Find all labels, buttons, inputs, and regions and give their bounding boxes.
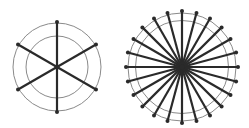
wheel-24-spokes: [124, 9, 240, 125]
spoke-end-dot: [132, 37, 136, 41]
spoke-end-dot: [229, 37, 233, 41]
spoke-end-dot: [132, 93, 136, 97]
spoke-wheels-diagram: [0, 0, 249, 128]
spoke: [57, 45, 96, 68]
spoke: [57, 67, 96, 90]
spoke-end-dot: [124, 65, 128, 69]
hub-dot: [180, 65, 185, 70]
spoke-end-dot: [220, 25, 224, 29]
spoke-end-dot: [180, 9, 184, 13]
spoke-end-dot: [152, 114, 156, 118]
spoke-end-dot: [220, 105, 224, 109]
hub-dot: [55, 65, 60, 70]
spoke-end-dot: [180, 121, 184, 125]
spoke-end-dot: [126, 79, 130, 83]
spoke-end-dot: [152, 17, 156, 21]
spoke-end-dot: [94, 43, 98, 47]
spoke-end-dot: [126, 51, 130, 55]
spoke: [18, 45, 57, 68]
spoke-end-dot: [16, 43, 20, 47]
spoke-end-dot: [236, 65, 240, 69]
spoke-end-dot: [194, 119, 198, 123]
spoke-end-dot: [16, 88, 20, 92]
spoke-end-dot: [234, 79, 238, 83]
spoke-end-dot: [234, 51, 238, 55]
spoke-end-dot: [194, 11, 198, 15]
spoke-end-dot: [166, 11, 170, 15]
spoke-end-dot: [140, 105, 144, 109]
spoke-end-dot: [229, 93, 233, 97]
spoke-end-dot: [208, 114, 212, 118]
spoke: [18, 67, 57, 90]
spoke-end-dot: [55, 20, 59, 24]
wheel-6-spokes: [13, 20, 101, 114]
spoke-end-dot: [94, 88, 98, 92]
spoke-end-dot: [55, 110, 59, 114]
spoke-end-dot: [208, 17, 212, 21]
spoke-end-dot: [140, 25, 144, 29]
spoke-end-dot: [166, 119, 170, 123]
